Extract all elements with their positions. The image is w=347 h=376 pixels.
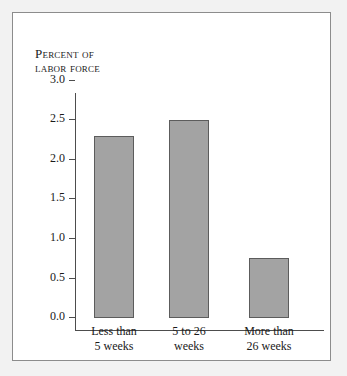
- y-tick-group-2.0: 2.0: [13, 159, 65, 160]
- x-tick-label-line-2: weeks: [149, 339, 229, 354]
- bar-5-to-26-weeks: [169, 120, 209, 318]
- x-tick-label-line-1: Less than: [74, 324, 154, 339]
- y-axis-title: Percent of labor force: [35, 47, 100, 75]
- x-tick-label-less-than-5-weeks: Less than 5 weeks: [74, 324, 154, 354]
- x-tick-label-line-2: 26 weeks: [229, 339, 309, 354]
- y-tick-mark: [69, 198, 75, 199]
- y-tick-mark: [69, 238, 75, 239]
- y-tick-label: 0.0: [31, 309, 65, 324]
- y-axis-line: [75, 93, 76, 331]
- y-tick-label: 0.5: [31, 270, 65, 285]
- x-tick-label-5-to-26-weeks: 5 to 26 weeks: [149, 324, 229, 354]
- bar-more-than-26-weeks: [249, 258, 289, 318]
- y-tick-label: 3.0: [31, 72, 65, 87]
- y-tick-label: 1.0: [31, 230, 65, 245]
- y-tick-group-1.5: 1.5: [13, 198, 65, 199]
- y-tick-mark: [69, 278, 75, 279]
- y-tick-mark: [69, 119, 75, 120]
- y-tick-label: 2.0: [31, 151, 65, 166]
- y-tick-group-0.5: 0.5: [13, 278, 65, 279]
- figure: Percent of labor force 3.0 2.5 2.0 1.5 1…: [0, 0, 347, 376]
- y-tick-mark: [69, 159, 75, 160]
- y-tick-group-3.0: 3.0: [13, 80, 65, 81]
- y-tick-mark: [69, 80, 75, 81]
- y-tick-group-0.0: 0.0: [13, 317, 65, 318]
- y-tick-group-2.5: 2.5: [13, 119, 65, 120]
- y-tick-mark: [69, 317, 75, 318]
- x-tick-label-line-1: 5 to 26: [149, 324, 229, 339]
- x-tick-label-line-2: 5 weeks: [74, 339, 154, 354]
- y-tick-label: 1.5: [31, 190, 65, 205]
- y-tick-label: 2.5: [31, 111, 65, 126]
- y-tick-group-1.0: 1.0: [13, 238, 65, 239]
- x-tick-label-line-1: More than: [229, 324, 309, 339]
- bar-less-than-5-weeks: [94, 136, 134, 318]
- plot-frame: Percent of labor force 3.0 2.5 2.0 1.5 1…: [12, 12, 331, 361]
- x-tick-label-more-than-26-weeks: More than 26 weeks: [229, 324, 309, 354]
- y-axis-title-line-1: Percent of: [35, 47, 100, 61]
